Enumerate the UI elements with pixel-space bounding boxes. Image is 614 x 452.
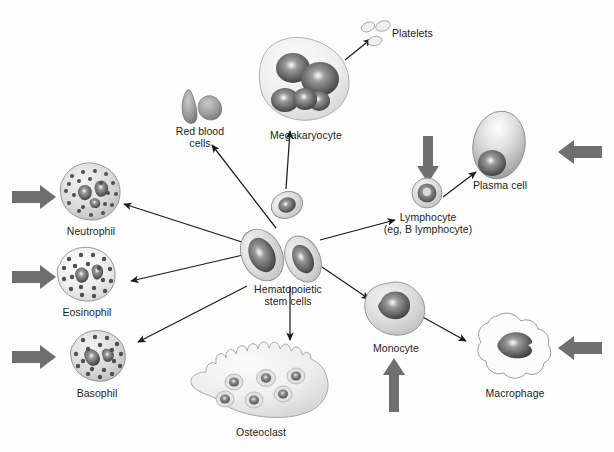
label-plasma-cell: Plasma cell — [461, 180, 539, 192]
label-platelets: Platelets — [392, 28, 462, 40]
label-macrophage: Macrophage — [471, 388, 559, 400]
arrow-monocyte-to-macrophage — [419, 315, 466, 341]
cell-monocyte — [365, 282, 425, 335]
cell-lymphocyte — [412, 178, 442, 208]
cell-platelets — [360, 19, 392, 47]
label-neutrophil: Neutrophil — [52, 226, 130, 238]
arrow-stem-to-red-blood-cells — [212, 145, 276, 228]
label-red-blood-cells: Red blood cells — [160, 126, 240, 150]
thick-arrow-macrophage-input — [558, 336, 602, 360]
arrow-stem-to-eosinophil — [131, 255, 243, 281]
hematopoiesis-diagram: Red blood cells Megakaryocyte Platelets … — [0, 0, 614, 452]
cell-hematopoietic-stem-cells — [232, 222, 328, 288]
thick-arrow-basophil-input — [12, 345, 56, 369]
cell-macrophage — [478, 313, 551, 378]
cell-eosinophil — [57, 247, 115, 301]
thick-arrow-neutrophil-input — [12, 185, 56, 209]
arrow-megakaryocyte-to-platelets — [345, 39, 371, 60]
label-monocyte: Monocyte — [358, 343, 434, 355]
label-osteoclast: Osteoclast — [222, 427, 300, 439]
cell-osteoclast — [191, 342, 328, 418]
thick-arrow-plasma-cell-input — [558, 140, 602, 164]
thick-arrow-monocyte-input — [383, 358, 405, 412]
arrow-stem-to-basophil — [138, 286, 247, 342]
thick-arrow-eosinophil-input — [12, 265, 56, 289]
cell-plasma-cell — [467, 107, 530, 183]
cell-neutrophil — [60, 163, 120, 220]
label-hematopoietic-stem-cells: Hematopoietic stem cells — [232, 284, 344, 308]
arrow-stem-to-neutrophil — [124, 204, 245, 243]
cell-red-blood-cells — [182, 90, 222, 124]
label-lymphocyte: Lymphocyte (eg, B lymphocyte) — [372, 212, 484, 236]
label-eosinophil: Eosinophil — [48, 307, 126, 319]
thick-arrow-lymphocyte-input — [417, 136, 439, 183]
label-basophil: Basophil — [61, 388, 133, 400]
label-megakaryocyte: Megakaryocyte — [250, 130, 362, 142]
cell-basophil — [71, 331, 126, 382]
cell-megakaryocyte — [259, 38, 349, 121]
cell-megakaryocyte-precursor — [267, 187, 306, 223]
